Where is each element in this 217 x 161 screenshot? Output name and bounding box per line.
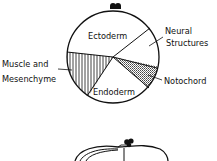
label-neural-line1: Neural bbox=[165, 26, 192, 36]
label-endoderm: Endoderm bbox=[93, 87, 135, 97]
label-neural-line2: Structures bbox=[166, 38, 208, 48]
polar-body-icon bbox=[110, 3, 121, 9]
label-muscle-line1: Muscle and bbox=[2, 59, 48, 69]
lower-outline-inner-2 bbox=[86, 150, 118, 161]
leader-neural bbox=[149, 37, 163, 46]
muscle-mesenchyme-region bbox=[60, 51, 113, 110]
label-notochord: Notochord bbox=[164, 76, 206, 86]
label-ectoderm: Ectoderm bbox=[88, 31, 127, 41]
lower-embryo bbox=[75, 138, 168, 161]
label-muscle-line2: Mesenchyme bbox=[2, 74, 56, 84]
upper-embryo: Ectoderm Neural Structures Notochord End… bbox=[2, 3, 208, 110]
fate-map-diagram: Ectoderm Neural Structures Notochord End… bbox=[0, 0, 217, 161]
